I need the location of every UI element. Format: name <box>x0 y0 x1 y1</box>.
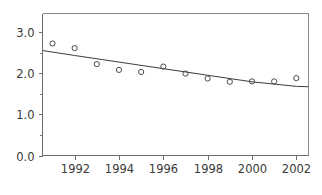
x-tick-label: 1996 <box>149 162 178 176</box>
x-tick-label: 1992 <box>61 162 90 176</box>
y-tick-label: 3.0 <box>16 26 34 40</box>
y-tick-label: 1.0 <box>16 108 34 122</box>
x-tick-label: 2002 <box>282 162 311 176</box>
scatter-plot-with-trendline: 0.01.02.03.0 199219941996199820002002 <box>0 0 322 195</box>
x-tick-label: 1998 <box>194 162 223 176</box>
x-tick-label: 1994 <box>105 162 134 176</box>
x-tick-label: 2000 <box>238 162 267 176</box>
y-tick-label: 2.0 <box>16 67 34 81</box>
chart-container: 0.01.02.03.0 199219941996199820002002 <box>0 0 322 195</box>
y-tick-label: 0.0 <box>16 150 34 164</box>
